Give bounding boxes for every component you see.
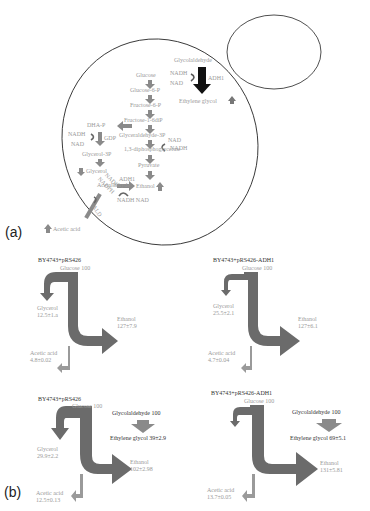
- glycerol-value: 12.5±1.a: [37, 312, 58, 318]
- acetic-acid-name: Acetic acid: [208, 350, 235, 356]
- glucose-label: Glucose 100: [242, 265, 272, 271]
- glycerol-name: Glycerol: [213, 303, 234, 309]
- strain-label: BY4743+pRS426: [38, 396, 81, 402]
- glycerol-value: 29.9±2.2: [37, 453, 58, 459]
- ethanol-name: Ethanol: [320, 460, 339, 466]
- ethanol-name: Ethanol: [130, 459, 149, 465]
- flux-diagram-2-arrows: [221, 272, 300, 373]
- acetic-acid-value: 4.8±0.02: [30, 357, 51, 363]
- glucose-label: Glucose 100: [72, 403, 102, 409]
- acetic-acid-value: 12.5±0.13: [36, 497, 60, 503]
- flux-diagram-4-arrows: [230, 405, 342, 502]
- flux-diagram-3-arrows: [51, 406, 155, 502]
- flux-diagram-1-arrows: [40, 272, 118, 373]
- acetic-acid-name: Acetic acid: [207, 487, 234, 493]
- panel-b-label: (b): [4, 484, 21, 500]
- ethanol-value: 127±6.1: [298, 323, 318, 329]
- glucose-label: Glucose 100: [60, 265, 90, 271]
- acetic-acid-value: 13.7±0.05: [207, 494, 231, 500]
- ethanol-name: Ethanol: [117, 316, 136, 322]
- ethanol-name: Ethanol: [298, 316, 317, 322]
- acetic-acid-value: 4.7±0.04: [208, 357, 229, 363]
- glycolaldehyde-label: Glycolaldehyde 100: [112, 410, 161, 416]
- ethanol-value: 131±5.81: [320, 467, 343, 473]
- strain-label: BY4743+pRS426-ADH1: [211, 390, 272, 396]
- glycolaldehyde-label: Glycolaldehyde 100: [292, 409, 341, 415]
- acetic-acid-name: Acetic acid: [36, 490, 63, 496]
- strain-label: BY4743+pRS426-ADH1: [213, 257, 274, 263]
- ethylene-glycol-label: Ethylene glycol 69±5.1: [290, 435, 346, 441]
- glycerol-name: Glycerol: [37, 305, 58, 311]
- acetic-acid-name: Acetic acid: [30, 350, 57, 356]
- strain-label: BY4743+pRS426: [38, 257, 81, 263]
- glycerol-value: 25.5±2.1: [213, 310, 234, 316]
- ethylene-glycol-label: Ethylene glycol 39±2.9: [110, 435, 166, 441]
- glycerol-name: Glycerol: [37, 446, 58, 452]
- ethanol-value: 102±2.98: [130, 466, 153, 472]
- ethanol-value: 127±7.9: [117, 323, 137, 329]
- glucose-label: Glucose 100: [244, 398, 274, 404]
